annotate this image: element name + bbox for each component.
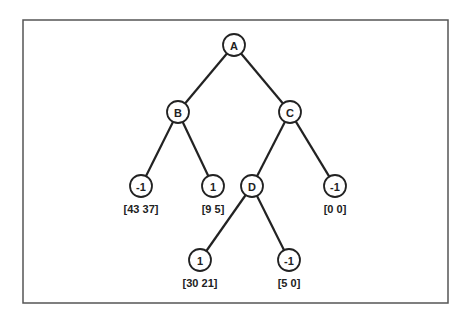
edge-A-C	[241, 53, 283, 103]
decision-tree-diagram: ABC-1[43 37]1[9 5]D-1[0 0]1[30 21]-1[5 0…	[0, 0, 471, 321]
node-label: D	[248, 181, 256, 193]
edge-D-L5	[257, 196, 284, 250]
leaf-class-counts: [9 5]	[202, 203, 225, 215]
tree-node-D: D	[241, 175, 263, 197]
edge-C-D	[257, 122, 285, 176]
leaf-class-counts: [5 0]	[278, 277, 301, 289]
node-label: -1	[136, 181, 146, 193]
tree-edges	[146, 53, 329, 251]
tree-node-B: B	[167, 101, 189, 123]
node-label: -1	[330, 181, 340, 193]
edge-C-L3	[296, 121, 330, 176]
edge-B-L2	[183, 122, 209, 176]
diagram-frame	[23, 20, 448, 303]
tree-node-L3: -1[0 0]	[324, 175, 347, 215]
edge-A-B	[185, 53, 227, 103]
node-label: C	[286, 107, 294, 119]
tree-node-L2: 1[9 5]	[202, 175, 225, 215]
tree-node-A: A	[223, 34, 245, 56]
node-label: 1	[197, 255, 203, 267]
tree-nodes: ABC-1[43 37]1[9 5]D-1[0 0]1[30 21]-1[5 0…	[124, 34, 347, 289]
node-label: B	[174, 107, 182, 119]
tree-node-C: C	[279, 101, 301, 123]
tree-node-L4: 1[30 21]	[183, 249, 218, 289]
leaf-class-counts: [30 21]	[183, 277, 218, 289]
node-label: -1	[284, 255, 294, 267]
edge-B-L1	[146, 122, 173, 176]
leaf-class-counts: [43 37]	[124, 203, 159, 215]
node-label: 1	[210, 181, 216, 193]
tree-node-L5: -1[5 0]	[278, 249, 301, 289]
node-label: A	[230, 40, 238, 52]
tree-node-L1: -1[43 37]	[124, 175, 159, 215]
leaf-class-counts: [0 0]	[324, 203, 347, 215]
